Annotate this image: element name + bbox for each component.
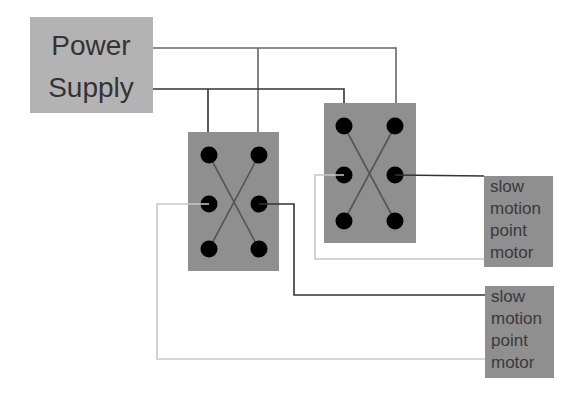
power-supply-label-line1: Power bbox=[51, 30, 130, 61]
terminal bbox=[336, 213, 353, 230]
wiring-diagram: Power Supply bbox=[0, 0, 580, 399]
motor-label-line: motor bbox=[491, 353, 535, 372]
motor1-wire-dark bbox=[395, 175, 484, 176]
terminal bbox=[251, 241, 268, 258]
terminal bbox=[387, 118, 404, 135]
terminal bbox=[387, 213, 404, 230]
supply-wire-negative bbox=[153, 89, 344, 126]
power-supply: Power Supply bbox=[30, 17, 153, 113]
motor-label-line: point bbox=[491, 331, 528, 350]
motor-label-line: slow bbox=[491, 287, 526, 306]
terminal bbox=[336, 118, 353, 135]
switch-left bbox=[188, 132, 279, 271]
motor-label-line: motion bbox=[490, 199, 541, 218]
terminal bbox=[201, 241, 218, 258]
motor-label-line: slow bbox=[490, 177, 525, 196]
diagram-canvas: Power Supply bbox=[0, 0, 580, 399]
motor-label-line: motion bbox=[491, 309, 542, 328]
motor-1: slow motion point motor bbox=[484, 176, 553, 267]
motor-label-line: point bbox=[490, 221, 527, 240]
motor-2: slow motion point motor bbox=[485, 286, 554, 378]
motor-label-line: motor bbox=[490, 243, 534, 262]
switch-right bbox=[324, 103, 416, 243]
terminal bbox=[201, 147, 218, 164]
power-supply-label-line2: Supply bbox=[48, 72, 134, 103]
terminal bbox=[251, 147, 268, 164]
